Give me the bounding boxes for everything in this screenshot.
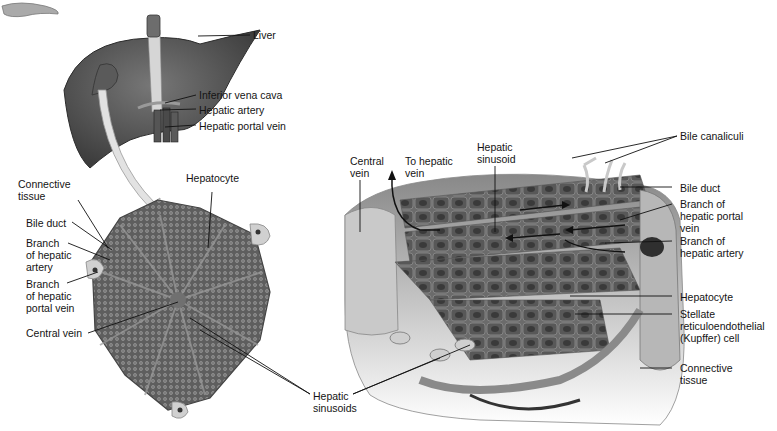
label-hepatic-artery: Hepatic artery	[199, 104, 264, 116]
label-to-hepatic-vein: To hepatic vein	[405, 155, 453, 179]
lobule-detail-block	[345, 158, 684, 425]
label-connective-tissue-detail: Connective tissue	[680, 362, 733, 386]
label-branch-hepatic-artery-lobule: Branch of hepatic artery	[26, 237, 72, 273]
label-hepatocyte-lobule: Hepatocyte	[186, 172, 239, 184]
label-liver: Liver	[253, 29, 276, 41]
lobule-cross-section	[86, 200, 270, 418]
label-bile-duct-lobule: Bile duct	[26, 217, 66, 229]
label-bile-duct-detail: Bile duct	[680, 182, 720, 194]
label-kupffer-cell: Stellate reticuloendothelial (Kupffer) c…	[680, 308, 765, 344]
label-hepatic-sinusoids: Hepatic sinusoids	[313, 390, 357, 414]
organ-fragment	[2, 3, 58, 17]
label-connective-tissue-lobule: Connective tissue	[18, 178, 71, 202]
label-hepatic-portal-vein: Hepatic portal vein	[199, 120, 286, 132]
label-inferior-vena-cava: Inferior vena cava	[199, 89, 282, 101]
label-central-vein-detail: Central vein	[350, 155, 384, 179]
label-branch-portal-vein-lobule: Branch of hepatic portal vein	[26, 278, 74, 314]
label-branch-hepatic-artery-detail: Branch of hepatic artery	[680, 235, 744, 259]
liver-lobule-illustration	[0, 0, 777, 431]
label-hepatocyte-detail: Hepatocyte	[680, 291, 733, 303]
label-branch-portal-vein-detail: Branch of hepatic portal vein	[680, 198, 743, 234]
label-hepatic-sinusoid: Hepatic sinusoid	[477, 141, 516, 165]
label-bile-canaliculi: Bile canaliculi	[680, 130, 744, 142]
label-central-vein-lobule: Central vein	[26, 327, 82, 339]
